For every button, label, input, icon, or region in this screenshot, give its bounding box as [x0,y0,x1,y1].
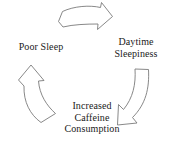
arrow-left [19,65,56,123]
curved-block-arrow-up-right-icon [19,65,56,123]
node-label-increased-caffeine: Increased Caffeine Consumption [52,100,132,135]
node-label-daytime-sleepiness: Daytime Sleepiness [100,36,172,59]
block-arrow-right-icon [59,3,113,30]
cycle-diagram: Poor Sleep Daytime Sleepiness Increased … [0,0,173,150]
node-label-poor-sleep: Poor Sleep [2,41,80,53]
arrow-top [59,3,113,30]
